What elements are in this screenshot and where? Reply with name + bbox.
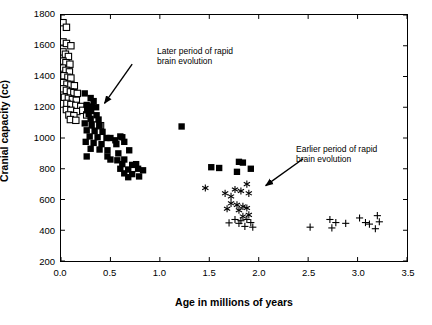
x-tick-label: 0.5 (90, 267, 130, 278)
y-tick-label: 1400 (0, 70, 55, 81)
annotation-later-line2: brain evolution (157, 57, 233, 67)
annotation-later-period: Later period of rapid brain evolution (157, 47, 233, 66)
annotation-earlier-line2: brain evolution (296, 155, 377, 165)
y-tick-label: 600 (0, 194, 55, 205)
y-tick-label: 800 (0, 163, 55, 174)
x-tick-label: 3.0 (338, 267, 378, 278)
x-tick-label: 1.5 (189, 267, 229, 278)
y-tick-label: 1800 (0, 8, 55, 19)
x-axis-label: Age in millions of years (60, 296, 408, 308)
scatter-canvas (61, 15, 407, 261)
y-tick-label: 200 (0, 256, 55, 267)
plot-area (60, 14, 408, 262)
chart-figure: Cranial capacity (cc) 200400600800100012… (0, 0, 432, 325)
y-tick-label: 400 (0, 225, 55, 236)
x-tick-label: 3.5 (388, 267, 428, 278)
annotation-earlier-period: Earlier period of rapid brain evolution (296, 145, 377, 164)
x-tick-label: 1.0 (139, 267, 179, 278)
x-tick-label: 2.0 (239, 267, 279, 278)
y-tick-label: 1200 (0, 101, 55, 112)
y-tick-label: 1000 (0, 132, 55, 143)
x-tick-label: 0.0 (40, 267, 80, 278)
x-tick-label: 2.5 (289, 267, 329, 278)
y-tick-label: 1600 (0, 39, 55, 50)
